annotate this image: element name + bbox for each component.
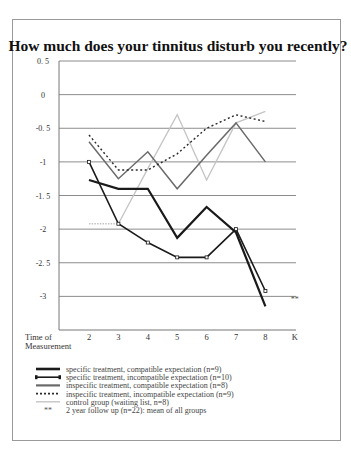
- data-point-marker: [235, 228, 238, 231]
- legend-swatch-marker: [35, 375, 38, 379]
- chart-title: How much does your tinnitus disturb you …: [8, 37, 347, 54]
- y-tick-label: -1: [40, 158, 47, 167]
- series-line-0: [89, 180, 265, 306]
- data-point-marker: [117, 222, 120, 225]
- series-line-2: [89, 123, 265, 189]
- series-line-1: [89, 162, 265, 291]
- x-tick-label: 7: [234, 332, 238, 342]
- x-tick-label: 5: [175, 332, 179, 342]
- x-tick-label: 4: [146, 332, 151, 342]
- y-tick-label: 0: [41, 91, 45, 100]
- y-tick-label: 0. 5: [37, 57, 49, 66]
- y-tick-label: -2. 5: [36, 259, 51, 268]
- y-axis-ticks: 0. 50-0. 5-1-1. 5-2-2. 5-3: [36, 57, 51, 301]
- line-chart: How much does your tinnitus disturb you …: [0, 0, 351, 459]
- data-point-marker: [205, 256, 208, 259]
- x-tick-label: K: [292, 332, 299, 342]
- x-axis-label-line2: Measurement: [25, 341, 72, 351]
- data-point-marker: [176, 256, 179, 259]
- gridlines: [59, 61, 296, 296]
- x-tick-label: 6: [204, 332, 208, 342]
- x-axis-ticks: 2345678K: [87, 332, 299, 342]
- data-point-marker: [146, 241, 149, 244]
- x-tick-label: 2: [87, 332, 91, 342]
- x-tick-label: 3: [116, 332, 120, 342]
- y-tick-label: -3: [40, 292, 47, 301]
- legend: specific treatment, compatible expectati…: [35, 365, 234, 415]
- x-tick-label: 8: [263, 332, 267, 342]
- data-point-marker: [88, 160, 91, 163]
- y-tick-label: -2: [40, 225, 47, 234]
- legend-label: 2 year follow up (n=22): mean of all gro…: [66, 406, 206, 415]
- legend-swatch-marker: [59, 375, 62, 379]
- series-group: **: [88, 111, 299, 306]
- y-tick-label: -0. 5: [36, 124, 51, 133]
- y-tick-label: -1. 5: [36, 192, 51, 201]
- data-point-marker: [264, 289, 267, 292]
- follow-up-marker: **: [291, 295, 299, 304]
- legend-swatch-follow-up: **: [44, 406, 52, 415]
